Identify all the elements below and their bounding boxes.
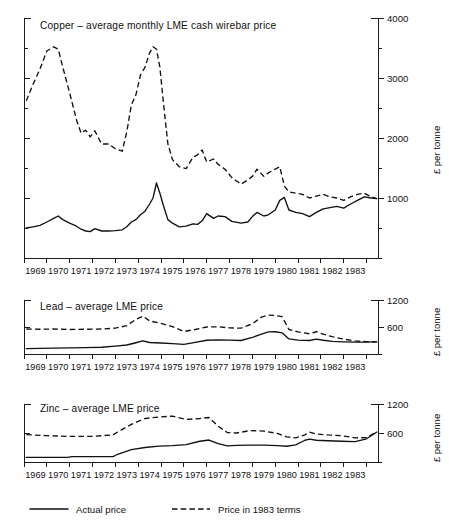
legend-label-actual-price: Actual price xyxy=(76,504,126,515)
chart-panel-copper: 1969197019711972197319741975197619771978… xyxy=(0,0,449,290)
copper-xtick-label-1972: 1972 xyxy=(94,266,114,276)
copper-xtick-label-1974: 1974 xyxy=(139,266,159,276)
chart-panel-lead: 1969197019711972197319741975197619771978… xyxy=(0,292,449,388)
lead-xtick-label-1977: 1977 xyxy=(208,362,228,372)
zinc-xtick-label-1970: 1970 xyxy=(48,470,68,480)
lead-ytick-label-1200: 1200 xyxy=(387,295,408,306)
copper-xtick-label-1980: 1980 xyxy=(276,266,296,276)
copper-plot-area: 1969197019711972197319741975197619771978… xyxy=(24,13,408,276)
zinc-xtick-label-1973: 1973 xyxy=(117,470,137,480)
zinc-xtick-label-1979: 1979 xyxy=(254,470,274,480)
lead-xtick-label-1974: 1974 xyxy=(139,362,159,372)
copper-xtick-label-1969: 1969 xyxy=(25,266,45,276)
copper-series-real1983 xyxy=(26,47,377,201)
zinc-xtick-label-1982: 1982 xyxy=(322,470,342,480)
lead-xtick-label-1971: 1971 xyxy=(71,362,91,372)
lead-y-axis-title: £ per tonne xyxy=(431,308,442,357)
lead-xtick-label-1973: 1973 xyxy=(117,362,137,372)
lead-ytick-label-600: 600 xyxy=(387,322,403,333)
lead-xtick-label-1976: 1976 xyxy=(185,362,205,372)
zinc-xtick-label-1976: 1976 xyxy=(185,470,205,480)
copper-ytick-label-3000: 3000 xyxy=(387,73,408,84)
lead-xtick-label-1972: 1972 xyxy=(94,362,114,372)
copper-y-axis-title: £ per tonne xyxy=(431,126,442,175)
zinc-xtick-label-1978: 1978 xyxy=(231,470,251,480)
zinc-xtick-label-1981: 1981 xyxy=(299,470,319,480)
copper-ytick-label-2000: 2000 xyxy=(387,133,408,144)
copper-ytick-label-1000: 1000 xyxy=(387,193,408,204)
lead-xtick-label-1980: 1980 xyxy=(276,362,296,372)
zinc-y-axis-title: £ per tonne xyxy=(431,414,442,463)
copper-ytick-label-4000: 4000 xyxy=(387,13,408,24)
lead-chart-title: Lead – average LME price xyxy=(40,301,163,312)
zinc-xtick-label-1969: 1969 xyxy=(25,470,45,480)
zinc-ytick-label-1200: 1200 xyxy=(387,399,408,410)
zinc-xtick-label-1977: 1977 xyxy=(208,470,228,480)
lead-xtick-label-1982: 1982 xyxy=(322,362,342,372)
zinc-series-real1983 xyxy=(26,416,377,438)
lead-series-real1983 xyxy=(26,315,377,342)
copper-xtick-label-1982: 1982 xyxy=(322,266,342,276)
zinc-xtick-label-1972: 1972 xyxy=(94,470,114,480)
lead-xtick-label-1978: 1978 xyxy=(231,362,251,372)
lead-xtick-label-1969: 1969 xyxy=(25,362,45,372)
zinc-xtick-label-1971: 1971 xyxy=(71,470,91,480)
copper-xtick-label-1973: 1973 xyxy=(117,266,137,276)
copper-xtick-label-1970: 1970 xyxy=(48,266,68,276)
copper-xtick-label-1971: 1971 xyxy=(71,266,91,276)
copper-xtick-label-1979: 1979 xyxy=(254,266,274,276)
chart-panel-zinc: 1969197019711972197319741975197619771978… xyxy=(0,394,449,498)
zinc-ytick-label-600: 600 xyxy=(387,428,403,439)
figure-root: 1969197019711972197319741975197619771978… xyxy=(0,0,449,524)
zinc-xtick-label-1975: 1975 xyxy=(162,470,182,480)
copper-chart-title: Copper – average monthly LME cash wireba… xyxy=(40,20,277,31)
copper-xtick-label-1981: 1981 xyxy=(299,266,319,276)
lead-xtick-label-1981: 1981 xyxy=(299,362,319,372)
copper-xtick-label-1975: 1975 xyxy=(162,266,182,276)
lead-xtick-label-1970: 1970 xyxy=(48,362,68,372)
copper-series-actual xyxy=(26,183,377,232)
zinc-xtick-label-1980: 1980 xyxy=(276,470,296,480)
zinc-xtick-label-1974: 1974 xyxy=(139,470,159,480)
lead-xtick-label-1979: 1979 xyxy=(254,362,274,372)
figure-legend: Actual price Price in 1983 terms xyxy=(0,498,449,524)
copper-xtick-label-1976: 1976 xyxy=(185,266,205,276)
lead-xtick-label-1975: 1975 xyxy=(162,362,182,372)
zinc-chart-title: Zinc – average LME price xyxy=(40,403,160,414)
copper-xtick-label-1977: 1977 xyxy=(208,266,228,276)
lead-xtick-label-1983: 1983 xyxy=(345,362,365,372)
legend-label-price-1983-terms: Price in 1983 terms xyxy=(218,504,301,515)
copper-xtick-label-1983: 1983 xyxy=(345,266,365,276)
copper-xtick-label-1978: 1978 xyxy=(231,266,251,276)
zinc-xtick-label-1983: 1983 xyxy=(345,470,365,480)
